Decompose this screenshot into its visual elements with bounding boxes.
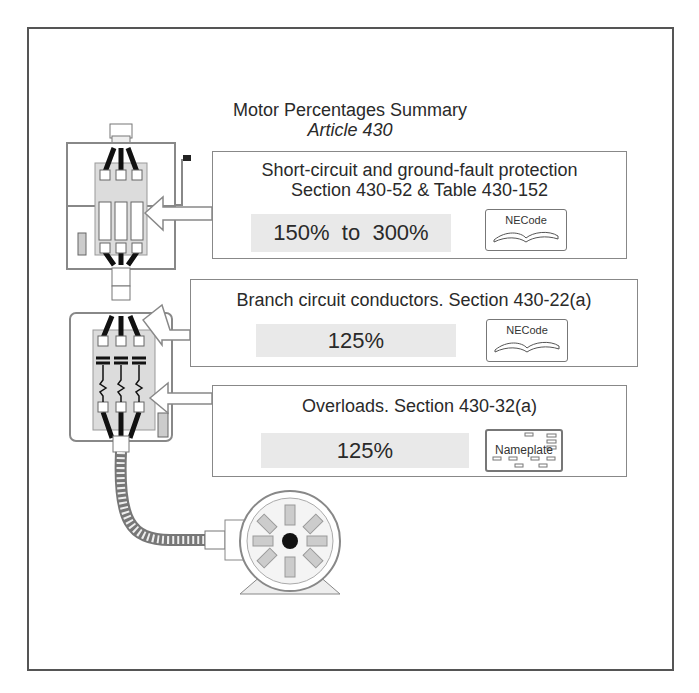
- callout-heading: Branch circuit conductors. Section 430-2…: [191, 290, 637, 310]
- reference-necode: NECode: [486, 319, 568, 362]
- reference-nameplate: Nameplate: [485, 429, 563, 472]
- callout-heading: Short-circuit and ground-fault protectio…: [213, 160, 626, 200]
- callout-heading: Overloads. Section 430-32(a): [213, 396, 626, 416]
- percentage-value: 150% to 300%: [251, 214, 451, 252]
- reference-necode: NECode: [485, 209, 567, 251]
- electric-motor: [225, 491, 340, 594]
- callout-overloads: Overloads. Section 430-32(a) 125% Namepl…: [212, 385, 627, 477]
- callout-short-circuit: Short-circuit and ground-fault protectio…: [212, 151, 627, 259]
- open-book-icon: [491, 226, 561, 244]
- percentage-value: 125%: [256, 324, 456, 357]
- percentage-value: 125%: [261, 433, 469, 468]
- open-book-icon: [492, 336, 562, 354]
- callout-branch-conductors: Branch circuit conductors. Section 430-2…: [190, 279, 638, 367]
- flexible-conduit: [121, 452, 225, 549]
